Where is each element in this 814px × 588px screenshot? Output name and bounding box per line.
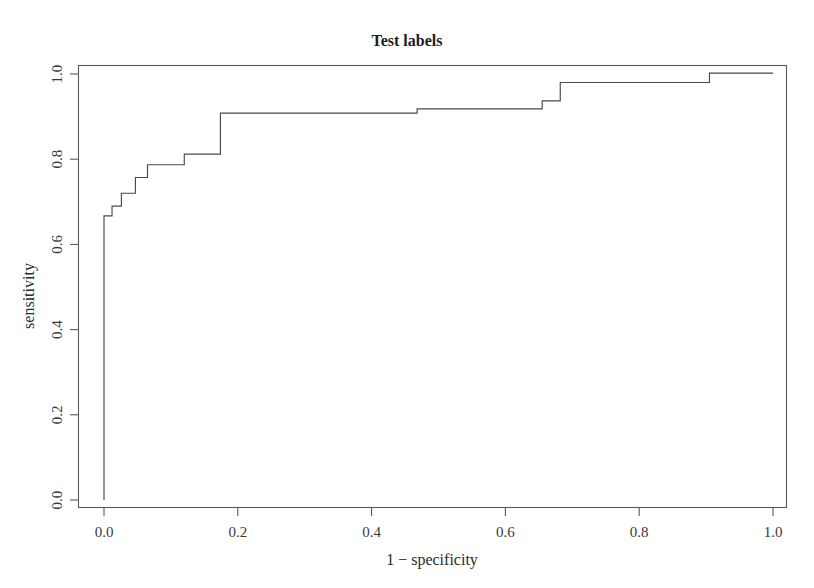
y-tick-label: 0.4 (49, 320, 65, 339)
x-axis-tick-labels: 0.00.20.40.60.81.0 (95, 524, 783, 540)
page-title: Test labels (372, 32, 443, 49)
x-tick-label: 0.2 (228, 524, 247, 540)
y-tick-label: 1.0 (49, 65, 65, 84)
x-axis-ticks (104, 508, 773, 516)
x-tick-label: 0.8 (630, 524, 649, 540)
x-tick-label: 0.6 (496, 524, 515, 540)
x-axis-title: 1 − specificity (386, 551, 478, 569)
y-axis-title: sensitivity (20, 263, 38, 329)
roc-curve-line (104, 73, 773, 500)
x-tick-label: 0.0 (95, 524, 114, 540)
y-tick-label: 0.0 (49, 491, 65, 510)
plot-frame (79, 66, 787, 508)
y-axis-ticks (70, 74, 78, 500)
y-tick-label: 0.8 (49, 150, 65, 169)
roc-chart-svg: Test labels 0.00.20.40.60.81.0 0.00.20.4… (0, 0, 814, 588)
x-tick-label: 1.0 (764, 524, 783, 540)
x-tick-label: 0.4 (362, 524, 381, 540)
roc-plot-container: Test labels 0.00.20.40.60.81.0 0.00.20.4… (0, 0, 814, 588)
y-tick-label: 0.2 (49, 405, 65, 424)
y-axis-tick-labels: 0.00.20.40.60.81.0 (49, 65, 65, 510)
y-tick-label: 0.6 (49, 235, 65, 254)
